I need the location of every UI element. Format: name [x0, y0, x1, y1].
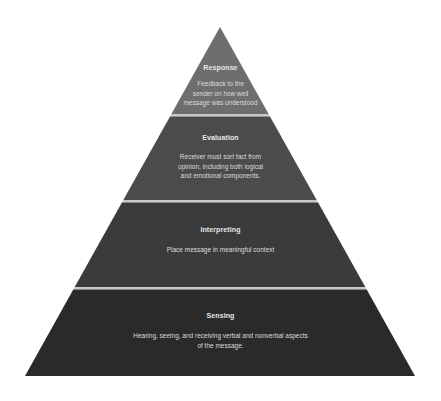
- level-interpreting-description: Place message in meaningful context: [0, 245, 441, 255]
- description-line: Hearing, seeing, and receiving verbal an…: [0, 331, 441, 341]
- pyramid-diagram: Response Feedback to the sender on how w…: [0, 0, 441, 401]
- description-line: message was understood: [0, 98, 441, 108]
- description-line: and emotional components.: [0, 171, 441, 181]
- description-line: sender on how well: [0, 89, 441, 99]
- divider-2: [122, 200, 318, 203]
- level-response-description: Feedback to the sender on how well messa…: [0, 79, 441, 108]
- level-response-title: Response: [0, 64, 441, 71]
- divider-3: [73, 287, 366, 290]
- level-sensing-description: Hearing, seeing, and receiving verbal an…: [0, 331, 441, 350]
- description-line: of the message.: [0, 341, 441, 351]
- level-sensing-title: Sensing: [0, 312, 441, 319]
- description-line: opinion, including both logical: [0, 162, 441, 172]
- level-evaluation-title: Evaluation: [0, 134, 441, 141]
- level-interpreting-title: Interpreting: [0, 226, 441, 233]
- description-line: Place message in meaningful context: [0, 245, 441, 255]
- divider-1: [170, 114, 270, 117]
- description-line: Receiver must sort fact from: [0, 152, 441, 162]
- level-evaluation-description: Receiver must sort fact from opinion, in…: [0, 152, 441, 181]
- description-line: Feedback to the: [0, 79, 441, 89]
